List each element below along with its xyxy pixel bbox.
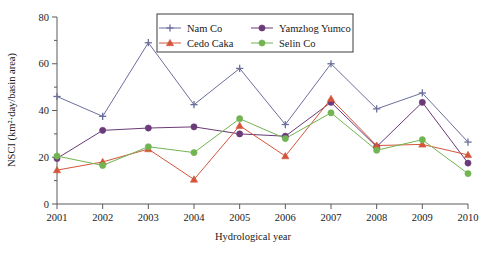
triangle-icon [236,122,243,128]
x-tick-label: 2006 [275,212,296,223]
circle-icon [419,137,425,143]
legend-label: Selin Co [279,38,315,49]
circle-icon [328,110,334,116]
y-tick-label: 80 [39,12,50,23]
x-tick-label: 2009 [412,212,433,223]
circle-icon [145,125,151,131]
circle-icon [237,131,243,137]
y-axis-ticks [52,17,57,204]
x-tick-label: 2002 [92,212,113,223]
x-tick-label: 2008 [366,212,387,223]
chart-legend: Nam CoCedo CakaYamzhog YumcoSelin Co [157,14,353,52]
series-line [57,99,468,180]
circle-icon [237,116,243,122]
circle-icon [191,149,197,155]
x-tick-label: 2007 [321,212,342,223]
line-chart: 020406080 200120022003200420052006200720… [0,0,483,259]
legend-label: Cedo Caka [187,38,234,49]
y-tick-label: 40 [39,105,50,116]
x-tick-label: 2003 [138,212,159,223]
series-line [57,113,468,174]
circle-icon [100,162,106,168]
y-axis-title: NSCI (km²·day/basin area) [6,53,18,167]
x-axis-title: Hydrological year [215,231,292,242]
y-axis-tick-labels: 020406080 [39,12,50,210]
circle-icon [145,144,151,150]
series-marker-group [54,99,471,166]
x-tick-label: 2001 [47,212,68,223]
circle-icon [54,153,60,159]
y-tick-label: 60 [39,58,50,69]
circle-icon [259,40,265,46]
circle-icon [282,135,288,141]
chart-figure: 020406080 200120022003200420052006200720… [0,0,483,259]
legend-label: Yamzhog Yumco [279,23,351,34]
y-tick-label: 20 [39,152,50,163]
circle-icon [465,160,471,166]
triangle-icon [327,95,334,101]
circle-icon [465,171,471,177]
x-tick-label: 2010 [458,212,479,223]
x-tick-label: 2005 [229,212,250,223]
y-tick-label: 0 [44,199,49,210]
x-axis-ticks [57,204,468,209]
series-line [57,43,468,142]
circle-icon [259,25,265,31]
legend-label: Nam Co [187,23,222,34]
circle-icon [419,99,425,105]
series-lines [57,43,468,180]
series-line [57,102,468,163]
circle-icon [100,127,106,133]
circle-icon [191,124,197,130]
x-axis-tick-labels: 2001200220032004200520062007200820092010 [47,212,479,223]
x-tick-label: 2004 [184,212,206,223]
circle-icon [374,147,380,153]
series-marker-group [53,95,471,182]
series-markers [53,39,471,182]
